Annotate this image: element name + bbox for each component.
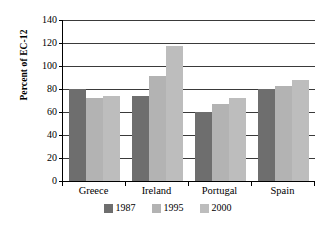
y-tick-label: 100: [42, 61, 57, 71]
legend: 198719952000: [0, 203, 335, 213]
x-axis-category-label: Greece: [62, 185, 125, 197]
legend-swatch-icon: [104, 204, 113, 213]
legend-item[interactable]: 1995: [152, 203, 184, 213]
y-tick-label: 60: [47, 107, 57, 117]
bar-chart: Percent of EC-12 020406080100120140 Gree…: [0, 0, 335, 229]
bar-group: [63, 20, 126, 181]
x-axis-category-label: Portugal: [188, 185, 251, 197]
bar[interactable]: [292, 80, 309, 181]
bar[interactable]: [103, 96, 120, 181]
bar[interactable]: [86, 98, 103, 181]
plot-area: 020406080100120140: [62, 20, 315, 182]
legend-swatch-icon: [152, 204, 161, 213]
bar[interactable]: [132, 96, 149, 181]
x-axis-category-label: Spain: [251, 185, 314, 197]
bar[interactable]: [229, 98, 246, 181]
bar[interactable]: [166, 46, 183, 181]
x-tick-mark: [314, 181, 315, 186]
y-axis-title: Percent of EC-12: [19, 5, 29, 125]
y-tick-label: 80: [47, 84, 57, 94]
legend-label: 2000: [212, 203, 232, 213]
bar-group: [126, 20, 189, 181]
y-tick-label: 120: [42, 38, 57, 48]
bar[interactable]: [258, 89, 275, 181]
y-tick-label: 40: [47, 130, 57, 140]
legend-label: 1995: [164, 203, 184, 213]
y-tick-label: 20: [47, 153, 57, 163]
legend-item[interactable]: 1987: [104, 203, 136, 213]
bars-layer: [63, 20, 315, 181]
y-tick-label: 0: [52, 176, 57, 186]
bar[interactable]: [69, 89, 86, 181]
legend-item[interactable]: 2000: [200, 203, 232, 213]
bar-group: [189, 20, 252, 181]
bar[interactable]: [149, 76, 166, 181]
legend-label: 1987: [116, 203, 136, 213]
x-axis-labels: GreeceIrelandPortugalSpain: [62, 185, 314, 197]
bar[interactable]: [275, 86, 292, 181]
bar[interactable]: [195, 112, 212, 181]
legend-swatch-icon: [200, 204, 209, 213]
x-axis-category-label: Ireland: [125, 185, 188, 197]
bar-group: [252, 20, 315, 181]
bar[interactable]: [212, 104, 229, 181]
y-tick-label: 140: [42, 15, 57, 25]
